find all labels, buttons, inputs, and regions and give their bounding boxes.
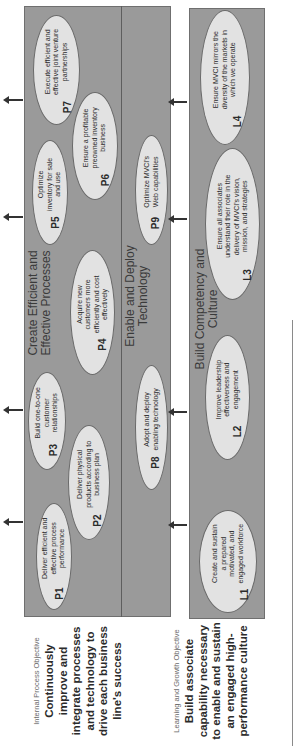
objective-code: P3 [48,444,59,456]
strategy-map-rotated: Internal Process Objective Continuously … [0,0,295,746]
objective-text: Acquire new customers more efficiently a… [76,274,110,334]
internal-process-objective: Internal Process Objective Continuously … [32,622,124,740]
objective-code: L3 [242,269,253,281]
objective-text: Ensure MVCI mirrors the diversity of the… [212,28,238,112]
arrow-up-icon [173,218,187,220]
objective-code: P2 [92,514,103,526]
objective-code: P4 [97,338,108,350]
learning-growth-objective-label: Learning and Growth Objective [172,620,181,742]
objective-p6: P6 Ensure a profitable preowned inventor… [72,92,118,200]
arrow-up-icon [173,411,187,413]
objective-text: Ensure all associates understand their r… [216,167,250,265]
arrow-up-icon [173,101,187,103]
objective-p2: P2 Deliver physical products according t… [68,425,110,540]
objective-code: P6 [100,174,111,186]
arrow-up-icon [8,409,23,411]
learning-growth-objective-text: Build associate capability necessary to … [183,620,251,742]
objective-text: Optimize MVCI's Web capabilities [143,151,160,213]
objective-text: Deliver physical products according to b… [76,438,102,510]
objective-p8: P8 Adopt and deploy enabling technology [135,365,168,490]
objective-l3: L3 Ensure all associates understand thei… [205,148,260,300]
objective-l4: L4 Ensure MVCI mirrors the diversity of … [200,10,250,145]
objective-code: P8 [150,456,161,468]
objective-text: Deliver efficient and effective process … [41,513,67,583]
objective-code: L1 [239,589,250,601]
objective-l1: L1 Create and sustain a prepared motivat… [199,510,257,613]
technology-group-title: Enable and Deploy Technology [124,244,150,348]
objective-p4: P4 Acquire new customers more efficientl… [70,250,115,375]
objective-p3: P3 Build one-to-one customer relationshi… [28,372,66,470]
objective-p5: P5 Optimize inventory for sale and use [32,140,68,245]
objective-code: P7 [62,101,73,113]
objective-text: Ensure a profitable preowned inventory b… [82,106,108,170]
process-technology-divider [121,6,122,617]
internal-process-objective-label: Internal Process Objective [32,622,41,740]
processes-group-title: Create Efficient and Effective Processes [27,238,53,368]
objective-p1: P1 Deliver efficient and effective proce… [36,503,72,610]
objective-p9: P9 Optimize MVCI's Web capabilities [135,135,168,245]
learning-growth-objective: Learning and Growth Objective Build asso… [172,620,251,742]
internal-process-objective-text: Continuously improve and integrate proce… [43,622,124,740]
objective-code: L2 [232,426,243,438]
objective-l2: L2 Improve leadership effectiveness and … [205,335,250,460]
arrow-up-icon [8,216,23,218]
objective-text: Adopt and deploy enabling technology [143,386,160,452]
arrow-up-icon [8,521,23,523]
objective-text: Build one-to-one customer relationships [34,386,60,440]
objective-code: L4 [232,116,243,128]
objective-text: Optimize inventory for sale and use [37,156,63,212]
objective-text: Improve leadership effectiveness and eng… [215,358,241,422]
objective-code: P1 [54,587,65,599]
page-edge-line [292,320,293,746]
objective-code: P9 [150,217,161,229]
objective-p7: P7 Execute efficient and effective joint… [33,15,80,125]
arrow-up-icon [8,99,23,101]
objective-text: Execute efficient and effective joint ve… [44,27,70,97]
objective-text: Create and sustain a prepared motivated,… [211,523,245,585]
arrow-up-icon [173,524,187,526]
objective-code: P5 [50,216,61,228]
